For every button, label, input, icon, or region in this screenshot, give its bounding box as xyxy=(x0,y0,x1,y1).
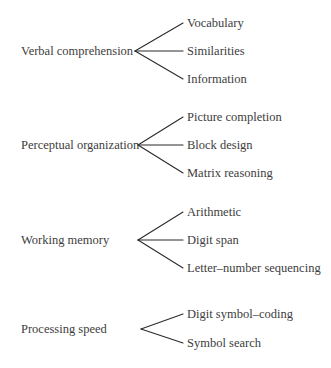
branch-line xyxy=(135,23,183,51)
subtest-label-picture-completion: Picture completion xyxy=(187,110,282,124)
subtest-label-digit-symbol-coding: Digit symbol–coding xyxy=(187,307,293,321)
branch-line xyxy=(141,329,183,343)
branch-group-perceptual-organization xyxy=(138,117,183,173)
branch-group-processing-speed xyxy=(141,314,183,343)
subtest-label-arithmetic: Arithmetic xyxy=(187,205,241,219)
branch-line xyxy=(141,314,183,329)
branch-line xyxy=(138,212,183,240)
subtest-label-digit-span: Digit span xyxy=(187,233,239,247)
subtest-label-similarities: Similarities xyxy=(187,44,245,58)
branch-line xyxy=(135,51,183,79)
subtest-label-vocabulary: Vocabulary xyxy=(187,16,244,30)
factor-label-processing-speed: Processing speed xyxy=(21,322,107,336)
branch-line xyxy=(138,240,183,268)
subtest-label-letter-number-sequencing: Letter–number sequencing xyxy=(187,261,321,275)
branch-line xyxy=(138,145,183,173)
factor-label-working-memory: Working memory xyxy=(21,233,109,247)
factor-label-perceptual-organization: Perceptual organization xyxy=(21,138,139,152)
branch-line xyxy=(138,117,183,145)
subtest-label-matrix-reasoning: Matrix reasoning xyxy=(187,166,273,180)
branch-group-verbal-comprehension xyxy=(135,23,183,79)
branch-group-working-memory xyxy=(138,212,183,268)
subtest-label-block-design: Block design xyxy=(187,138,253,152)
subtest-label-information: Information xyxy=(187,72,247,86)
factor-tree-diagram: Verbal comprehension Vocabulary Similari… xyxy=(0,0,331,368)
subtest-label-symbol-search: Symbol search xyxy=(187,336,261,350)
factor-label-verbal-comprehension: Verbal comprehension xyxy=(21,44,133,58)
